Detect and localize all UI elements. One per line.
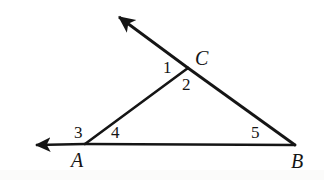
angle-label-3: 3 — [74, 124, 83, 141]
angle-label-2: 2 — [182, 76, 191, 93]
angle-label-5: 5 — [251, 124, 260, 141]
angle-label-4: 4 — [111, 124, 120, 141]
segment-ab — [85, 144, 295, 145]
geometry-figure: A B C 1 2 3 4 5 — [0, 0, 324, 180]
segment-ac — [85, 68, 188, 144]
ray-through-a-arrow — [36, 144, 85, 145]
vertex-label-c: C — [195, 48, 208, 68]
geometry-canvas — [0, 0, 324, 180]
vertex-label-b: B — [291, 151, 303, 171]
vertex-label-a: A — [71, 150, 83, 170]
segment-cb — [188, 68, 295, 145]
ray-through-c-arrow — [119, 17, 188, 68]
angle-label-1: 1 — [163, 59, 172, 76]
